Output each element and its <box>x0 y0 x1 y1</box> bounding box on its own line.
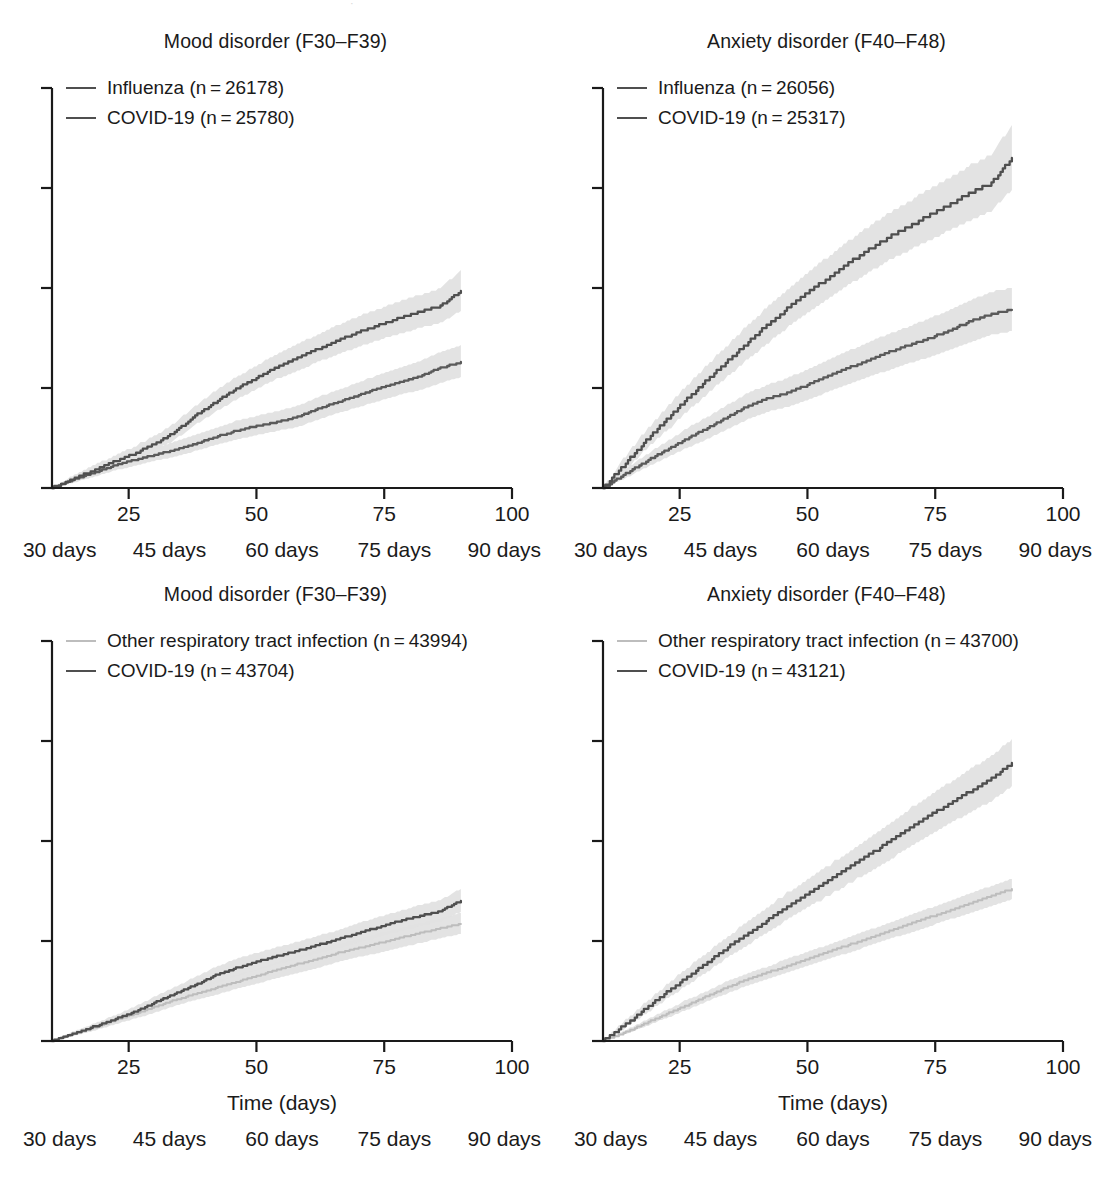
x-tick-label: 100 <box>494 502 529 526</box>
legend-line-icon <box>617 640 647 642</box>
page-bleed-text: · <box>350 0 1050 11</box>
legend-line-icon <box>66 117 96 119</box>
x-tick-label: 25 <box>668 502 691 526</box>
x-tick-label: 75 <box>924 502 947 526</box>
risk-time-label: 60 days <box>796 1127 870 1151</box>
risk-time-labels: 30 days45 days60 days75 days90 days <box>551 1127 1102 1155</box>
x-tick-labels: 255075100 <box>0 1055 551 1083</box>
legend-item: Other respiratory tract infection (n = 4… <box>617 626 1019 656</box>
risk-time-label: 75 days <box>358 1127 432 1151</box>
risk-time-label: 75 days <box>358 538 432 562</box>
legend-item: Other respiratory tract infection (n = 4… <box>66 626 468 656</box>
risk-time-label: 75 days <box>909 1127 983 1151</box>
x-tick-label: 75 <box>373 1055 396 1079</box>
legend-item: Influenza (n = 26178) <box>66 73 295 103</box>
x-tick-label: 25 <box>117 1055 140 1079</box>
risk-time-labels: 30 days45 days60 days75 days90 days <box>551 538 1102 566</box>
legend-label: COVID-19 (n = 25317) <box>658 107 846 129</box>
risk-time-labels: 30 days45 days60 days75 days90 days <box>0 538 551 566</box>
x-tick-labels: 255075100 <box>0 502 551 530</box>
x-tick-labels: 255075100 <box>551 502 1102 530</box>
risk-time-label: 30 days <box>23 1127 97 1151</box>
risk-time-label: 60 days <box>245 538 319 562</box>
legend-label: Influenza (n = 26056) <box>658 77 835 99</box>
risk-time-label: 75 days <box>909 538 983 562</box>
legend-item: COVID-19 (n = 25780) <box>66 103 295 133</box>
x-tick-label: 75 <box>373 502 396 526</box>
risk-time-label: 30 days <box>23 538 97 562</box>
x-tick-labels: 255075100 <box>551 1055 1102 1083</box>
legend-label: Other respiratory tract infection (n = 4… <box>658 630 1019 652</box>
legend-line-icon <box>617 117 647 119</box>
panel-mood-other-rti: Mood disorder (F30–F39) 255075100Time (d… <box>0 583 551 1182</box>
legend: Other respiratory tract infection (n = 4… <box>66 626 468 686</box>
x-tick-label: 50 <box>796 1055 819 1079</box>
panel-anxiety-influenza: Anxiety disorder (F40–F48) 25507510030 d… <box>551 30 1102 585</box>
risk-time-label: 30 days <box>574 1127 648 1151</box>
legend: Influenza (n = 26178) COVID-19 (n = 2578… <box>66 73 295 133</box>
x-axis-title: Time (days) <box>603 1091 1063 1115</box>
x-tick-label: 75 <box>924 1055 947 1079</box>
risk-time-label: 45 days <box>684 538 758 562</box>
legend-line-icon <box>617 670 647 672</box>
legend-line-icon <box>66 87 96 89</box>
x-tick-label: 50 <box>245 1055 268 1079</box>
legend-line-icon <box>617 87 647 89</box>
risk-time-label: 90 days <box>468 538 542 562</box>
risk-time-label: 45 days <box>684 1127 758 1151</box>
x-tick-label: 100 <box>494 1055 529 1079</box>
legend: Other respiratory tract infection (n = 4… <box>617 626 1019 686</box>
legend-item: Influenza (n = 26056) <box>617 73 846 103</box>
risk-time-label: 60 days <box>796 538 870 562</box>
x-tick-label: 50 <box>796 502 819 526</box>
legend-item: COVID-19 (n = 43121) <box>617 656 1019 686</box>
risk-time-label: 45 days <box>133 1127 207 1151</box>
legend-label: Other respiratory tract infection (n = 4… <box>107 630 468 652</box>
legend-label: COVID-19 (n = 43704) <box>107 660 295 682</box>
panel-mood-influenza: Mood disorder (F30–F39) 25507510030 days… <box>0 30 551 585</box>
legend: Influenza (n = 26056) COVID-19 (n = 2531… <box>617 73 846 133</box>
legend-line-icon <box>66 670 96 672</box>
x-tick-label: 100 <box>1045 502 1080 526</box>
risk-time-label: 60 days <box>245 1127 319 1151</box>
legend-label: COVID-19 (n = 25780) <box>107 107 295 129</box>
legend-label: Influenza (n = 26178) <box>107 77 284 99</box>
x-tick-label: 50 <box>245 502 268 526</box>
legend-label: COVID-19 (n = 43121) <box>658 660 846 682</box>
x-tick-label: 25 <box>668 1055 691 1079</box>
x-tick-label: 25 <box>117 502 140 526</box>
risk-time-label: 90 days <box>1019 1127 1093 1151</box>
legend-item: COVID-19 (n = 43704) <box>66 656 468 686</box>
panel-anxiety-other-rti: Anxiety disorder (F40–F48) 255075100Time… <box>551 583 1102 1182</box>
x-tick-label: 100 <box>1045 1055 1080 1079</box>
risk-time-labels: 30 days45 days60 days75 days90 days <box>0 1127 551 1155</box>
risk-time-label: 90 days <box>1019 538 1093 562</box>
legend-line-icon <box>66 640 96 642</box>
legend-item: COVID-19 (n = 25317) <box>617 103 846 133</box>
risk-time-label: 45 days <box>133 538 207 562</box>
x-axis-title: Time (days) <box>52 1091 512 1115</box>
risk-time-label: 30 days <box>574 538 648 562</box>
figure-root: · Mood disorder (F30–F39) 25507510030 da… <box>0 0 1102 1182</box>
risk-time-label: 90 days <box>468 1127 542 1151</box>
